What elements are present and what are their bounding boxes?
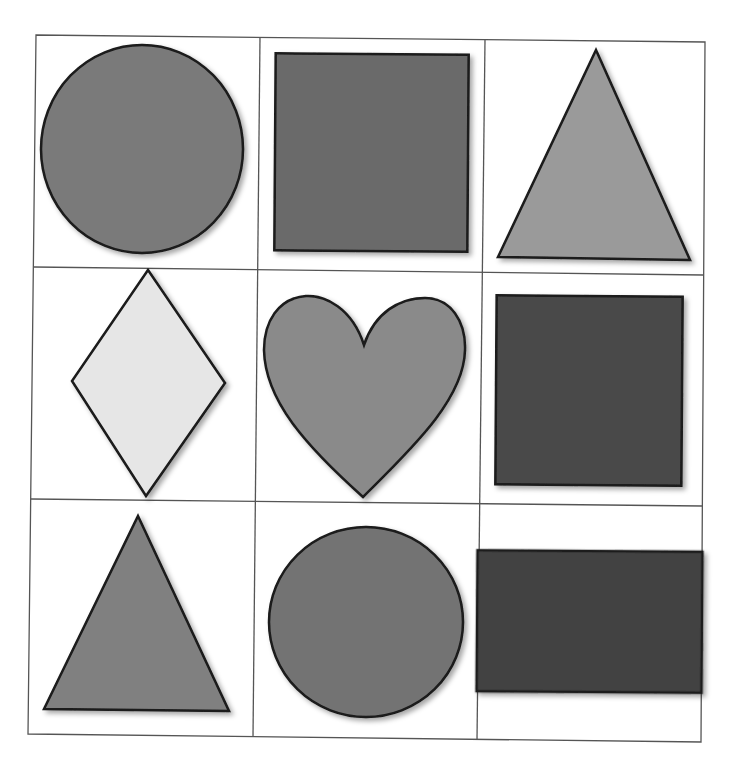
diamond-shape bbox=[72, 270, 225, 496]
triangle-shape bbox=[498, 50, 690, 260]
shapes-worksheet bbox=[0, 0, 739, 771]
grid-hline-2 bbox=[31, 499, 702, 506]
grid-hline-1 bbox=[34, 267, 703, 275]
circle-shape bbox=[41, 45, 243, 253]
heart-shape bbox=[264, 296, 465, 497]
triangle-shape bbox=[44, 516, 229, 711]
square-shape bbox=[274, 53, 468, 251]
rectangle-shape bbox=[477, 550, 703, 693]
rectangle-shape bbox=[495, 295, 682, 485]
grid-vline-1 bbox=[253, 37, 260, 737]
circle-shape bbox=[269, 527, 463, 717]
